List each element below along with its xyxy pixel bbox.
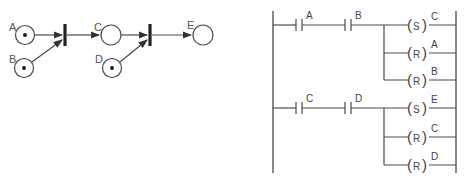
coil-target: E <box>431 94 438 105</box>
place-label: A <box>9 21 17 33</box>
svg-text:R: R <box>413 49 420 60</box>
token-icon <box>22 66 26 70</box>
contact-label: A <box>306 10 313 21</box>
contact-c: C <box>296 93 313 114</box>
coil-reset-b: ( R ) B <box>407 66 438 88</box>
svg-text:S: S <box>413 104 420 115</box>
arc-b-t1 <box>32 40 62 62</box>
svg-text:): ) <box>422 16 427 33</box>
place-label: D <box>95 53 103 65</box>
coil-set-e: ( S ) E <box>407 94 438 116</box>
place-label: C <box>94 21 102 33</box>
svg-text:): ) <box>422 44 427 61</box>
svg-text:R: R <box>413 133 420 144</box>
contact-label: D <box>355 93 362 104</box>
svg-text:S: S <box>413 21 420 32</box>
contact-label: B <box>355 10 362 21</box>
coil-target: A <box>431 39 438 50</box>
place-a: A <box>9 21 35 45</box>
coil-target: D <box>431 151 438 162</box>
place-d: D <box>95 53 122 78</box>
svg-text:R: R <box>413 76 420 87</box>
coil-reset-c: ( R ) C <box>407 123 438 145</box>
token-icon <box>110 66 114 70</box>
svg-text:(: ( <box>407 44 412 61</box>
contact-a: A <box>296 10 313 31</box>
contact-d: D <box>345 93 362 114</box>
rung-1: A B ( S ) C ( R ) <box>273 10 456 88</box>
rung-2: C D ( S ) E ( R ) <box>273 93 456 173</box>
place-e: E <box>187 19 213 45</box>
contact-label: C <box>306 93 313 104</box>
place-label: B <box>9 53 16 65</box>
place-c: C <box>94 21 121 45</box>
coil-target: C <box>431 123 438 134</box>
svg-text:): ) <box>422 99 427 116</box>
coil-target: B <box>431 66 438 77</box>
svg-text:): ) <box>422 71 427 88</box>
svg-text:(: ( <box>407 71 412 88</box>
contact-b: B <box>345 10 362 31</box>
svg-text:(: ( <box>407 16 412 33</box>
arc-d-t2 <box>120 40 147 62</box>
svg-text:): ) <box>422 128 427 145</box>
svg-text:(: ( <box>407 128 412 145</box>
token-icon <box>23 33 27 37</box>
ladder-diagram: A B ( S ) C ( R ) <box>273 10 456 173</box>
diagram-canvas: A B C D E <box>0 0 469 183</box>
svg-text:R: R <box>413 161 420 172</box>
place-label: E <box>187 19 194 31</box>
petri-net: A B C D E <box>9 19 213 78</box>
svg-text:): ) <box>422 156 427 173</box>
coil-reset-a: ( R ) A <box>407 39 438 61</box>
coil-reset-d: ( R ) D <box>407 151 438 173</box>
svg-text:(: ( <box>407 156 412 173</box>
svg-text:(: ( <box>407 99 412 116</box>
coil-target: C <box>431 11 438 22</box>
coil-set-c: ( S ) C <box>407 11 438 33</box>
place-b: B <box>9 53 34 78</box>
